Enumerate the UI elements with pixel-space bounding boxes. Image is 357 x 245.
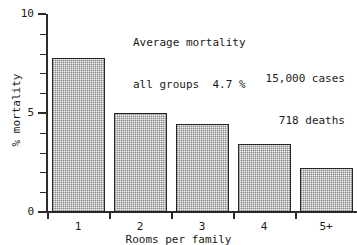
bar — [52, 58, 105, 212]
y-axis-minor-tick — [40, 133, 46, 134]
x-axis-tick — [109, 213, 111, 219]
y-axis-tick-label: 0 — [0, 206, 34, 217]
y-axis-minor-tick — [40, 153, 46, 154]
y-axis-minor-tick — [40, 192, 46, 193]
y-axis-minor-tick — [40, 172, 46, 173]
y-axis-major-tick — [38, 13, 46, 15]
y-axis-minor-tick — [40, 54, 46, 55]
x-axis-tick-label: 1 — [58, 221, 98, 233]
y-axis-title: % mortality — [11, 62, 23, 158]
y-axis-major-tick — [38, 211, 46, 213]
y-axis-tick-label: 10 — [0, 8, 34, 19]
y-axis-minor-tick — [40, 93, 46, 94]
x-axis-tick-label: 3 — [182, 221, 222, 233]
y-axis-minor-tick — [40, 34, 46, 35]
y-axis-minor-tick — [40, 73, 46, 74]
y-axis-major-tick — [38, 112, 46, 114]
x-axis-tick-label: 4 — [244, 221, 284, 233]
y-axis-line — [46, 14, 48, 213]
x-axis-tick — [47, 213, 49, 219]
bar — [114, 113, 167, 212]
counts-note-line2: 718 deaths — [197, 114, 345, 128]
counts-note-line1: 15,000 cases — [197, 72, 345, 86]
x-axis-tick — [233, 213, 235, 219]
x-axis-tick-label: 2 — [120, 221, 160, 233]
x-axis-tick — [295, 213, 297, 219]
x-axis-title: Rooms per family — [0, 234, 357, 245]
x-axis-tick — [171, 213, 173, 219]
bar-chart: 0510 % mortality 12345+ Rooms per family… — [0, 0, 357, 245]
bar — [300, 168, 353, 212]
x-axis-tick-label: 5+ — [306, 221, 346, 233]
counts-note: 15,000 cases 718 deaths — [197, 44, 345, 156]
